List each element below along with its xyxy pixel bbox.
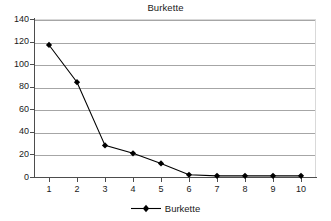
- legend-marker-icon: [131, 203, 161, 214]
- data-point-5: [158, 160, 164, 166]
- data-point-10: [298, 173, 304, 179]
- data-point-4: [130, 150, 136, 156]
- legend-label: Burkette: [165, 203, 200, 214]
- legend: Burkette: [0, 200, 331, 216]
- series-burkette: [0, 0, 331, 221]
- data-point-3: [102, 142, 108, 148]
- data-point-7: [214, 173, 220, 179]
- line-chart: Burkette 140 120 100 80 60 40 20 0 1 2 3…: [0, 0, 331, 221]
- data-point-6: [186, 172, 192, 178]
- data-point-9: [270, 173, 276, 179]
- series-line: [49, 45, 301, 176]
- data-point-8: [242, 173, 248, 179]
- series-markers: [46, 42, 304, 179]
